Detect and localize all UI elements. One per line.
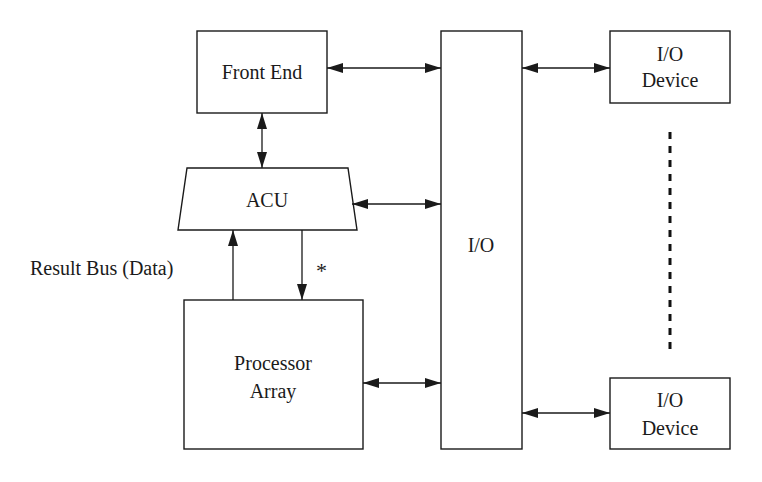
io-device-top-block: I/O Device bbox=[610, 31, 730, 103]
front-end-label: Front End bbox=[222, 61, 303, 83]
system-block-diagram: Front End ACU Processor Array I/O I/O De… bbox=[0, 0, 762, 482]
io-device-top-label-line1: I/O bbox=[657, 43, 684, 65]
result-bus-label: Result Bus (Data) bbox=[30, 257, 173, 280]
io-device-bottom-label-line2: Device bbox=[642, 417, 699, 439]
asterisk-label: * bbox=[316, 258, 327, 283]
io-device-bottom-label-line1: I/O bbox=[657, 389, 684, 411]
processor-array-block: Processor Array bbox=[184, 300, 363, 449]
acu-label: ACU bbox=[246, 189, 289, 211]
processor-array-label-line2: Array bbox=[250, 380, 297, 403]
io-label: I/O bbox=[468, 234, 495, 256]
io-device-bottom-block: I/O Device bbox=[610, 378, 730, 449]
front-end-block: Front End bbox=[197, 31, 327, 113]
io-device-top-label-line2: Device bbox=[642, 69, 699, 91]
acu-block: ACU bbox=[178, 168, 357, 230]
io-block: I/O bbox=[441, 31, 522, 449]
processor-array-label-line1: Processor bbox=[234, 352, 312, 374]
